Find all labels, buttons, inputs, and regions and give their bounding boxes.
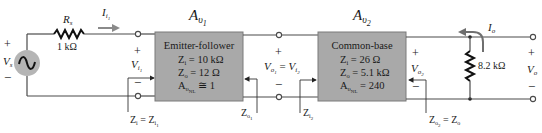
source-plus: +	[4, 37, 11, 51]
load-resistor-icon	[466, 51, 474, 81]
output-terminal-bottom	[530, 96, 535, 101]
zi-label: Zi = Zi1	[130, 114, 159, 128]
rs-label: Rs	[62, 13, 73, 27]
stage1-zo: Zo = 12 Ω	[178, 67, 220, 79]
input-current-arrow	[98, 24, 120, 32]
vi1-minus: −	[134, 75, 141, 90]
stage1-title: Emitter-follower	[164, 40, 235, 51]
output-terminal-top	[530, 34, 535, 39]
zi2-label: Zi2	[303, 107, 314, 121]
zo2-label: Zo2 = Zo	[429, 114, 460, 128]
vo-minus: −	[528, 79, 535, 94]
vo-plus: +	[528, 46, 535, 60]
cascaded-amplifier-diagram: + Vs − Rs 1 kΩ Ii1 + Vi1 − Zi = Zi1 Aυ1 …	[0, 0, 542, 133]
voltage-source	[14, 34, 40, 96]
interstage-minus: −	[275, 77, 282, 92]
interstage-plus: +	[275, 45, 282, 59]
vo2-plus: +	[412, 46, 419, 60]
source-label: Vs	[3, 55, 13, 69]
resistor-rs-icon	[54, 30, 84, 38]
input-terminal-bottom	[135, 93, 140, 98]
source-minus: −	[4, 70, 11, 85]
vo2-minus: −	[412, 79, 419, 94]
rs-value: 1 kΩ	[57, 41, 77, 52]
stage2-title: Common-base	[331, 40, 393, 51]
vo-label: Vo	[527, 63, 538, 77]
input-current-label: Ii1	[101, 6, 110, 21]
stage2-gain-label: Aυ2	[352, 7, 371, 28]
interstage-terminal-top	[276, 32, 281, 37]
vi1-label: Vi1	[131, 58, 142, 73]
output-current-label: Io	[487, 21, 496, 35]
vi1-plus: +	[134, 44, 141, 58]
interstage-voltage-label: Vo1 = Vi2	[264, 60, 300, 75]
vo2-label: Vo2	[411, 62, 424, 77]
stage1-gain-label: Aυ1	[188, 7, 207, 28]
stage2-zi: Zi = 26 Ω	[340, 54, 381, 66]
input-terminal-top	[135, 31, 140, 36]
interstage-terminal-bottom	[276, 94, 281, 99]
zo1-label: Zo1	[241, 107, 253, 121]
load-value: 8.2 kΩ	[478, 60, 505, 71]
